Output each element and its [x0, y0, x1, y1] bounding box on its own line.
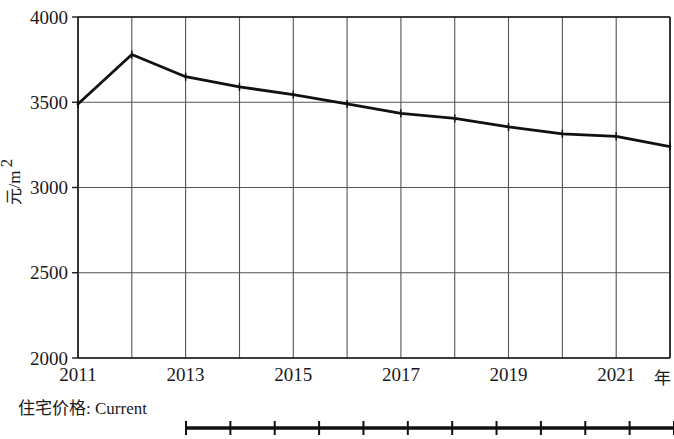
xtick-label-2013: 2013	[167, 364, 205, 385]
xtick-label-2021: 2021	[597, 364, 635, 385]
xtick-label-2019: 2019	[490, 364, 528, 385]
xtick-label-2017: 2017	[382, 364, 420, 385]
chart-canvas: 4000 3500 3000 2500 2000 2011 2013 2015 …	[0, 0, 674, 439]
y-axis-title-superscript: 2	[0, 159, 16, 168]
legend-label: 住宅价格: Current	[18, 399, 147, 418]
housing-price-line-chart: 4000 3500 3000 2500 2000 2011 2013 2015 …	[0, 0, 674, 439]
ytick-label-4000: 4000	[30, 7, 68, 28]
xtick-label-2015: 2015	[274, 364, 312, 385]
y-axis-title-base: 元/m	[5, 171, 24, 206]
ytick-label-3000: 3000	[30, 177, 68, 198]
xtick-label-2011: 2011	[59, 364, 96, 385]
x-axis-title: 年	[654, 369, 671, 388]
chart-background	[0, 0, 674, 439]
ytick-label-2500: 2500	[30, 262, 68, 283]
ytick-label-3500: 3500	[30, 92, 68, 113]
